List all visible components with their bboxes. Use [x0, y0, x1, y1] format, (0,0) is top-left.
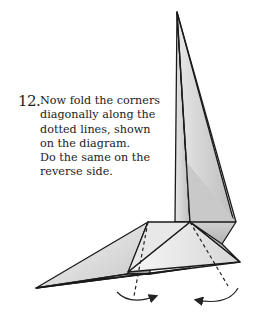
- fold-arrow-right-icon: [196, 288, 238, 302]
- origami-diagram: [0, 0, 259, 320]
- left-wing: [36, 222, 148, 288]
- fold-arrow-left-icon: [117, 292, 156, 300]
